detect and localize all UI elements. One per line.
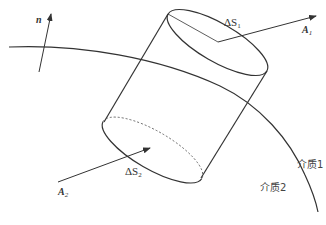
vector-a2-label: A2 — [57, 186, 69, 199]
cylinder-side-left — [104, 14, 168, 122]
bottom-area-label: ΔS2 — [125, 165, 142, 179]
bottom-surface-ellipse-back — [103, 105, 211, 178]
medium-2-label: 介质2 — [260, 182, 286, 193]
top-area-label: ΔS1 — [224, 16, 241, 30]
medium-1-label: 介质1 — [297, 159, 323, 170]
bottom-surface-ellipse-front — [94, 122, 202, 195]
cylinder-side-right — [201, 71, 267, 178]
vector-a1-label: A1 — [301, 24, 312, 37]
top-surface-ellipse — [159, 0, 277, 87]
diagram-canvas: n ΔS1 ΔS2 A1 A2 介质1 介质2 — [0, 0, 326, 225]
normal-label: n — [36, 14, 42, 25]
